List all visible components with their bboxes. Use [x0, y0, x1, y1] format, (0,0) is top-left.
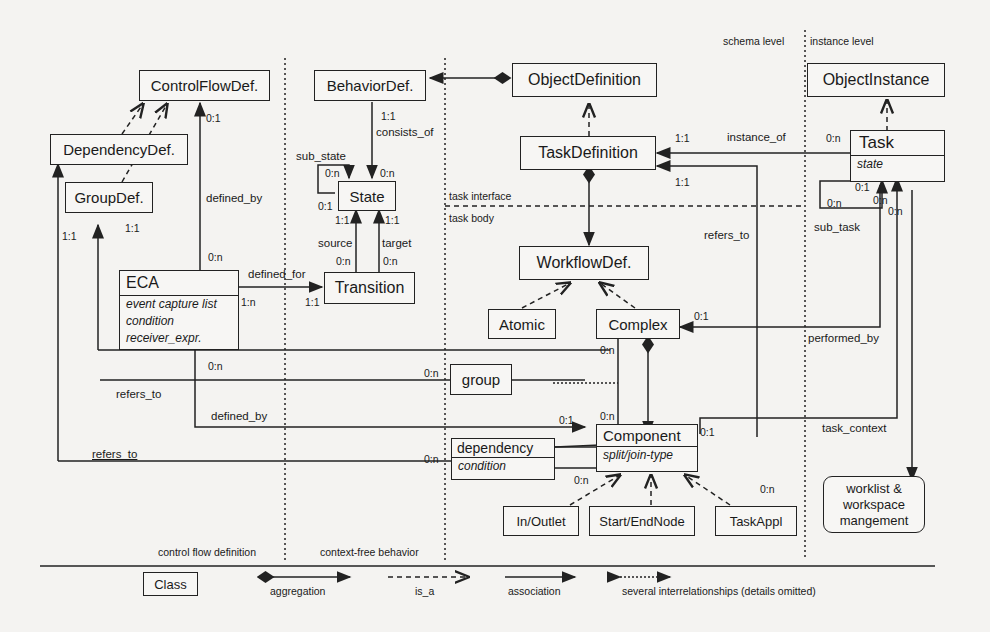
region-task-interface: task interface: [449, 190, 511, 202]
class-task[interactable]: Task state: [850, 130, 945, 182]
legend-class: Class: [143, 572, 198, 596]
component-attr-split-join-type: split/join-type: [597, 447, 697, 464]
card: 1:1: [305, 296, 320, 308]
class-task-name: Task: [851, 131, 944, 156]
rel-instance-of: instance_of: [727, 131, 786, 143]
region-task-body: task body: [449, 212, 494, 224]
class-start-end-node[interactable]: Start/EndNode: [589, 506, 695, 536]
rel-sub-task: sub_task: [814, 221, 860, 233]
class-transition[interactable]: Transition: [324, 272, 415, 304]
eca-attr-receiver-expr: receiver_expr.: [120, 330, 238, 347]
card: 0:1: [318, 200, 333, 212]
rel-refers-to-group: refers_to: [116, 388, 161, 400]
card: 1:1: [62, 230, 77, 242]
class-eca[interactable]: ECA event capture list condition receive…: [119, 270, 239, 350]
rel-target: target: [382, 237, 411, 249]
class-objectdefinition[interactable]: ObjectDefinition: [512, 63, 657, 97]
class-complex[interactable]: Complex: [596, 309, 680, 339]
card: 0:1: [855, 181, 870, 193]
legend-several: several interrelationships (details omit…: [622, 585, 816, 597]
card: 1:1: [381, 110, 396, 122]
card: 0:n: [574, 474, 589, 486]
class-component[interactable]: Component split/join-type: [596, 424, 698, 472]
card: 1:1: [335, 214, 350, 226]
class-workflowdef[interactable]: WorkflowDef.: [519, 246, 649, 280]
card: 1:1: [385, 214, 400, 226]
class-behaviordef[interactable]: BehaviorDef.: [314, 70, 426, 101]
card: 0:n: [826, 132, 841, 144]
region-control-flow-definition: control flow definition: [158, 546, 256, 558]
worklist-line-2: workspace: [843, 497, 905, 513]
card: 0:n: [325, 167, 340, 179]
class-group[interactable]: group: [450, 364, 512, 395]
class-groupdef[interactable]: GroupDef.: [65, 182, 153, 213]
eca-attr-event-capture-list: event capture list: [120, 296, 238, 313]
card: 0:1: [559, 414, 574, 426]
card: 0:n: [888, 205, 903, 217]
card: 0:n: [600, 344, 615, 356]
card: 0:n: [873, 194, 888, 206]
card: 0:n: [424, 453, 439, 465]
dependency-attr-condition: condition: [452, 458, 554, 475]
card: 1:n: [241, 296, 256, 308]
rel-source: source: [318, 237, 353, 249]
card: 0:n: [424, 367, 439, 379]
region-instance-level: instance level: [810, 35, 874, 47]
worklist-line-1: worklist &: [846, 481, 902, 497]
card: 0:n: [336, 255, 351, 267]
class-component-name: Component: [597, 425, 697, 447]
rel-task-context: task_context: [822, 422, 887, 434]
class-in-outlet[interactable]: In/Outlet: [503, 506, 579, 536]
card: 1:1: [675, 176, 690, 188]
card: 1:1: [125, 222, 140, 234]
rel-defined-by-component: defined_by: [211, 410, 267, 422]
class-atomic[interactable]: Atomic: [488, 309, 556, 339]
card: 0:n: [827, 197, 842, 209]
card: 1:1: [675, 132, 690, 144]
card: 0:n: [380, 167, 395, 179]
legend-aggregation: aggregation: [270, 585, 325, 597]
rel-refers-to-dependency: refers_to: [92, 448, 137, 460]
card: 0:1: [700, 426, 715, 438]
class-state[interactable]: State: [338, 181, 396, 211]
rel-consists-of: consists_of: [376, 126, 434, 138]
rel-refers-to-task: refers_to: [704, 229, 749, 241]
rel-defined-by: defined_by: [206, 192, 262, 204]
class-task-attr-state: state: [851, 156, 944, 173]
card: 0:n: [208, 251, 223, 263]
class-dependency[interactable]: dependency condition: [451, 438, 555, 480]
card: 0:n: [208, 360, 223, 372]
class-dependency-name: dependency: [452, 439, 554, 458]
card: 0:1: [206, 112, 221, 124]
eca-attr-condition: condition: [120, 313, 238, 330]
region-schema-level: schema level: [723, 35, 784, 47]
worklist-line-3: mangement: [840, 513, 909, 529]
card: 0:n: [760, 483, 775, 495]
legend-association: association: [508, 585, 561, 597]
class-controlflowdef[interactable]: ControlFlowDef.: [139, 70, 270, 101]
class-dependencydef[interactable]: DependencyDef.: [50, 134, 188, 165]
rel-defined-for: defined_for: [248, 268, 306, 280]
region-context-free-behavior: context-free behavior: [320, 546, 419, 558]
class-objectinstance[interactable]: ObjectInstance: [807, 63, 945, 97]
class-eca-name: ECA: [120, 271, 238, 296]
legend-is-a: is_a: [415, 585, 434, 597]
card: 0:n: [600, 410, 615, 422]
rel-performed-by: performed_by: [808, 332, 879, 344]
class-taskappl[interactable]: TaskAppl: [715, 506, 797, 536]
rel-sub-state: sub_state: [296, 150, 346, 162]
card: 0:1: [694, 310, 709, 322]
worklist-workspace-management[interactable]: worklist & workspace mangement: [823, 476, 925, 533]
card: 0:n: [383, 255, 398, 267]
class-taskdefinition[interactable]: TaskDefinition: [520, 136, 656, 170]
